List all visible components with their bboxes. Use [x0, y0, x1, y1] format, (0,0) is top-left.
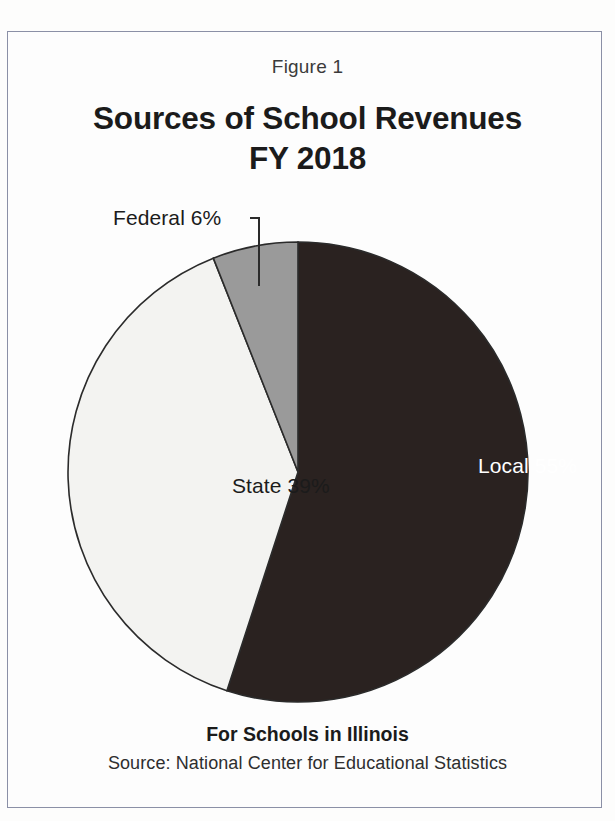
pie-chart-svg [0, 0, 615, 821]
pie-slice-group [68, 242, 528, 702]
pie-slice-label-state: State 39% [232, 474, 330, 498]
pie-chart [0, 0, 615, 821]
scanned-page: Figure 1 Sources of School Revenues FY 2… [0, 0, 615, 821]
pie-slice-label-federal: Federal 6% [113, 206, 221, 230]
chart-subtitle: For Schools in Illinois [0, 723, 615, 746]
pie-slice-label-local: Local 55% [478, 454, 577, 478]
chart-source-note: Source: National Center for Educational … [0, 753, 615, 774]
